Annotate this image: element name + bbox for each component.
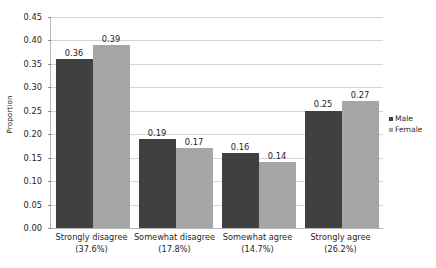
bar-value-label: 0.19 bbox=[148, 129, 166, 137]
bar-male[interactable]: 0.16 bbox=[222, 153, 259, 228]
bar-group: 0.160.14 bbox=[217, 17, 300, 228]
bar-male[interactable]: 0.25 bbox=[305, 111, 342, 228]
bar-female[interactable]: 0.14 bbox=[259, 162, 296, 228]
bar-slot: 0.14 bbox=[259, 17, 296, 228]
bar-group: 0.250.27 bbox=[300, 17, 383, 228]
x-axis-label: Somewhat disagree(17.8%) bbox=[133, 232, 216, 255]
y-axis-tick-labels: 0.450.400.350.300.250.200.150.100.050.00 bbox=[6, 17, 46, 228]
bar-male[interactable]: 0.19 bbox=[139, 139, 176, 228]
x-axis-label-text: Strongly disagree bbox=[56, 232, 128, 242]
bar-value-label: 0.14 bbox=[268, 152, 286, 160]
legend-label: Male bbox=[395, 113, 413, 124]
x-axis-label: Strongly disagree(37.6%) bbox=[50, 232, 133, 255]
bar-female[interactable]: 0.17 bbox=[176, 148, 213, 228]
bar-groups: 0.360.390.190.170.160.140.250.27 bbox=[51, 17, 383, 228]
bar-slot: 0.39 bbox=[93, 17, 130, 228]
y-tick-label: 0.30 bbox=[24, 83, 42, 91]
x-axis-label-percentage: (17.8%) bbox=[133, 244, 216, 256]
bar-value-label: 0.17 bbox=[185, 138, 203, 146]
x-axis-label: Somewhat agree(14.7%) bbox=[216, 232, 299, 255]
bar-slot: 0.17 bbox=[176, 17, 213, 228]
y-tick-label: 0.20 bbox=[24, 130, 42, 138]
bar-slot: 0.25 bbox=[305, 17, 342, 228]
x-axis-label-text: Somewhat agree bbox=[223, 232, 292, 242]
y-tick-label: 0.05 bbox=[24, 200, 42, 208]
bar-slot: 0.27 bbox=[342, 17, 379, 228]
x-axis-label-percentage: (14.7%) bbox=[216, 244, 299, 256]
x-axis-category-labels: Strongly disagree(37.6%)Somewhat disagre… bbox=[50, 232, 382, 255]
legend: MaleFemale bbox=[389, 113, 422, 135]
x-axis-label-percentage: (37.6%) bbox=[50, 244, 133, 256]
legend-label: Female bbox=[395, 124, 422, 135]
bar-value-label: 0.25 bbox=[314, 100, 332, 108]
bar-female[interactable]: 0.27 bbox=[342, 101, 379, 228]
bar-female[interactable]: 0.39 bbox=[93, 45, 130, 228]
legend-swatch-icon bbox=[389, 128, 393, 132]
bar-value-label: 0.27 bbox=[351, 91, 369, 99]
bar-male[interactable]: 0.36 bbox=[56, 59, 93, 228]
y-tick-label: 0.40 bbox=[24, 36, 42, 44]
bar-slot: 0.16 bbox=[222, 17, 259, 228]
legend-item-male[interactable]: Male bbox=[389, 113, 422, 124]
bar-value-label: 0.39 bbox=[102, 35, 120, 43]
legend-item-female[interactable]: Female bbox=[389, 124, 422, 135]
bar-group: 0.360.39 bbox=[51, 17, 134, 228]
y-tick-label: 0.10 bbox=[24, 177, 42, 185]
y-tick-label: 0.45 bbox=[24, 13, 42, 21]
bar-group: 0.190.17 bbox=[134, 17, 217, 228]
y-axis-tickmark bbox=[48, 228, 51, 229]
bar-chart: Proportion 0.450.400.350.300.250.200.150… bbox=[0, 0, 436, 268]
bar-value-label: 0.16 bbox=[231, 143, 249, 151]
y-tick-label: 0.35 bbox=[24, 60, 42, 68]
x-axis-label: Strongly agree(26.2%) bbox=[299, 232, 382, 255]
y-tick-label: 0.00 bbox=[24, 224, 42, 232]
bar-slot: 0.36 bbox=[56, 17, 93, 228]
y-tick-label: 0.15 bbox=[24, 154, 42, 162]
x-axis-label-percentage: (26.2%) bbox=[299, 244, 382, 256]
x-axis-label-text: Somewhat disagree bbox=[134, 232, 215, 242]
plot-area: 0.360.390.190.170.160.140.250.27 bbox=[50, 17, 383, 229]
legend-swatch-icon bbox=[389, 117, 393, 121]
bar-slot: 0.19 bbox=[139, 17, 176, 228]
bar-value-label: 0.36 bbox=[65, 49, 83, 57]
x-axis-label-text: Strongly agree bbox=[310, 232, 370, 242]
y-tick-label: 0.25 bbox=[24, 107, 42, 115]
